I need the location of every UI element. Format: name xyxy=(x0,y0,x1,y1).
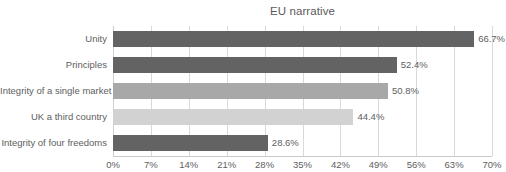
bar-value-label: 28.6% xyxy=(272,135,299,151)
x-tick-label: 21% xyxy=(217,158,236,172)
category-label: Unity xyxy=(0,26,107,52)
bar-band: 28.6% xyxy=(113,130,492,156)
x-tick-label: 49% xyxy=(369,158,388,172)
y-axis-category-labels: UnityPrinciplesIntegrity of a single mar… xyxy=(0,26,107,156)
bar[interactable] xyxy=(113,57,397,73)
x-tick-label: 70% xyxy=(482,158,501,172)
x-tick-label: 35% xyxy=(293,158,312,172)
category-label: Integrity of a single market xyxy=(0,78,107,104)
x-tick-label: 42% xyxy=(331,158,350,172)
bar-value-label: 44.4% xyxy=(357,109,384,125)
x-tick-label: 56% xyxy=(407,158,426,172)
category-label: Principles xyxy=(0,52,107,78)
x-tick-label: 28% xyxy=(255,158,274,172)
category-label: UK a third country xyxy=(0,104,107,130)
bar[interactable] xyxy=(113,135,268,151)
bar-band: 44.4% xyxy=(113,104,492,130)
bar-band: 52.4% xyxy=(113,52,492,78)
x-tick-label: 7% xyxy=(144,158,158,172)
x-tick-label: 63% xyxy=(445,158,464,172)
x-axis-line xyxy=(113,156,492,157)
bar-chart: EU narrative 66.7%52.4%50.8%44.4%28.6% U… xyxy=(0,0,506,172)
bar-band: 50.8% xyxy=(113,78,492,104)
x-tick-label: 14% xyxy=(179,158,198,172)
bar-series: 66.7%52.4%50.8%44.4%28.6% xyxy=(113,26,492,156)
chart-title: EU narrative xyxy=(113,5,492,17)
bar-value-label: 66.7% xyxy=(478,31,505,47)
x-axis-tick-labels: 0%7%14%21%28%35%42%49%56%63%70% xyxy=(113,158,492,172)
bar[interactable] xyxy=(113,83,388,99)
bar-band: 66.7% xyxy=(113,26,492,52)
bar[interactable] xyxy=(113,109,353,125)
bar-value-label: 52.4% xyxy=(401,57,428,73)
bar[interactable] xyxy=(113,31,474,47)
x-tick-label: 0% xyxy=(106,158,120,172)
bar-value-label: 50.8% xyxy=(392,83,419,99)
category-label: Integrity of four freedoms xyxy=(0,130,107,156)
plot-area: 66.7%52.4%50.8%44.4%28.6% xyxy=(113,26,492,156)
